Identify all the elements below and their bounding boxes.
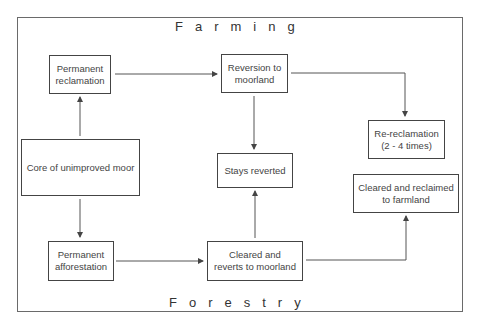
node-label: Stays reverted	[224, 165, 285, 177]
arrow-cleared-to-reclaimed	[306, 216, 406, 260]
node-permanent-reclamation: Permanent reclamation	[49, 55, 111, 94]
node-label: Permanent reclamation	[55, 63, 104, 87]
arrow-reversion-to-rereclamation	[291, 73, 405, 116]
node-stays-reverted: Stays reverted	[217, 153, 293, 188]
node-label: Permanent afforestation	[55, 249, 107, 273]
node-label: Reversion to moorland	[228, 62, 281, 86]
node-re-reclamation: Re-reclamation (2 - 4 times)	[368, 120, 445, 159]
node-permanent-afforestation: Permanent afforestation	[48, 241, 114, 281]
node-label: Cleared and reclaimed to farmland	[358, 182, 454, 206]
node-reversion-to-moorland: Reversion to moorland	[221, 54, 288, 93]
node-label: Core of unimproved moor	[27, 162, 135, 174]
node-cleared-reclaimed-farmland: Cleared and reclaimed to farmland	[353, 174, 459, 213]
node-core-unimproved-moor: Core of unimproved moor	[21, 139, 140, 196]
node-label: Cleared and reverts to moorland	[214, 249, 296, 273]
node-cleared-reverts-moorland: Cleared and reverts to moorland	[207, 241, 303, 281]
node-label: Re-reclamation (2 - 4 times)	[374, 128, 438, 152]
